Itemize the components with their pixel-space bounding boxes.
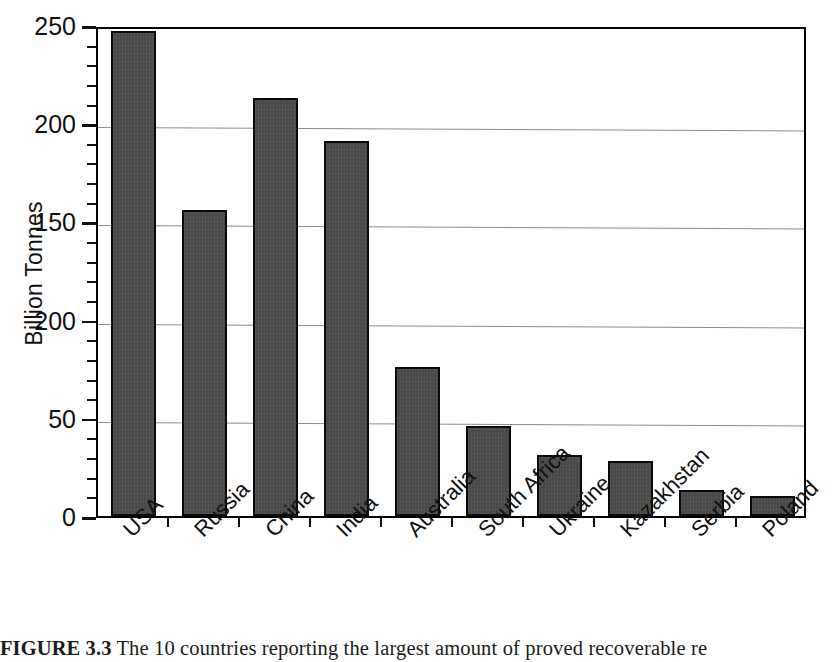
y-tick-minor-140 bbox=[87, 242, 96, 244]
y-axis-ticks bbox=[82, 27, 96, 518]
y-tick-minor-170 bbox=[87, 183, 96, 185]
y-tick-minor-40 bbox=[87, 438, 96, 440]
y-tick-minor-190 bbox=[87, 144, 96, 146]
y-tick-major-0 bbox=[82, 517, 96, 520]
y-tick-label-250: 250 bbox=[34, 14, 76, 39]
figure-3-3: Billion Tonnes 250200150200500 USARussia… bbox=[0, 0, 840, 632]
bar-china bbox=[253, 98, 297, 516]
y-tick-minor-70 bbox=[87, 380, 96, 382]
y-tick-minor-160 bbox=[87, 203, 96, 205]
y-tick-major-100 bbox=[82, 321, 96, 324]
y-tick-minor-80 bbox=[87, 360, 96, 362]
y-tick-minor-60 bbox=[87, 399, 96, 401]
y-tick-minor-20 bbox=[87, 478, 96, 480]
y-tick-major-50 bbox=[82, 419, 96, 422]
y-tick-label-150: 150 bbox=[34, 210, 76, 235]
y-tick-label-50: 50 bbox=[48, 407, 76, 432]
y-tick-minor-30 bbox=[87, 458, 96, 460]
bar-usa bbox=[111, 31, 155, 516]
figure-caption: FIGURE 3.3 The 10 countries reporting th… bbox=[0, 634, 840, 662]
y-tick-minor-180 bbox=[87, 163, 96, 165]
y-tick-minor-130 bbox=[87, 262, 96, 264]
x-axis-category-labels: USARussiaChinaIndiaAustraliaSouth Africa… bbox=[0, 524, 840, 632]
bar-india bbox=[324, 141, 368, 516]
figure-caption-label: FIGURE 3.3 bbox=[0, 637, 111, 659]
y-tick-minor-90 bbox=[87, 340, 96, 342]
y-tick-minor-240 bbox=[87, 46, 96, 48]
y-tick-label-100: 200 bbox=[34, 309, 76, 334]
y-tick-minor-10 bbox=[87, 497, 96, 499]
y-tick-minor-110 bbox=[87, 301, 96, 303]
bar-russia bbox=[182, 210, 226, 516]
y-tick-major-250 bbox=[82, 26, 96, 29]
figure-caption-text: The 10 countries reporting the largest a… bbox=[111, 637, 707, 659]
y-tick-major-200 bbox=[82, 124, 96, 127]
y-tick-minor-230 bbox=[87, 65, 96, 67]
y-tick-minor-120 bbox=[87, 281, 96, 283]
y-tick-major-150 bbox=[82, 222, 96, 225]
y-tick-minor-220 bbox=[87, 85, 96, 87]
plot-area bbox=[96, 27, 806, 518]
y-tick-label-200: 200 bbox=[34, 112, 76, 137]
y-axis-tick-labels: 250200150200500 bbox=[0, 27, 76, 518]
y-tick-minor-210 bbox=[87, 105, 96, 107]
bar-series bbox=[98, 29, 804, 516]
